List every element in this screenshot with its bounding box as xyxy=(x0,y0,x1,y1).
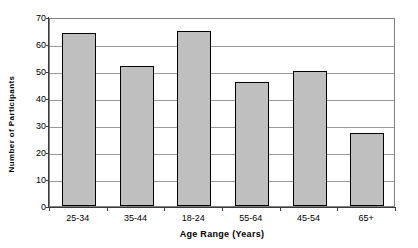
x-axis-title: Age Range (Years) xyxy=(49,229,395,239)
x-axis-tick-mark xyxy=(337,207,338,211)
bar xyxy=(350,133,384,206)
bars-group xyxy=(50,19,394,206)
bar xyxy=(62,33,96,206)
y-axis-tick-label: 10 xyxy=(20,176,46,185)
y-axis-title: Number of Participants xyxy=(0,0,22,248)
plot-area xyxy=(49,18,395,207)
bar xyxy=(293,71,327,206)
x-axis-tick-mark xyxy=(49,207,50,211)
x-axis-tick-label: 45-54 xyxy=(297,213,320,223)
bar xyxy=(235,82,269,206)
y-axis-tick-label: 70 xyxy=(20,14,46,23)
x-axis-tick-label: 55-64 xyxy=(239,213,262,223)
x-axis-tick-label: 25-34 xyxy=(66,213,89,223)
y-axis-tick-label: 40 xyxy=(20,95,46,104)
y-axis-tick-label: 20 xyxy=(20,149,46,158)
bar-chart: Number of Participants 706050403020100 2… xyxy=(0,0,418,248)
y-axis-tick-label: 50 xyxy=(20,68,46,77)
y-axis-tick-label: 60 xyxy=(20,41,46,50)
bar xyxy=(120,66,154,206)
x-axis-tick-mark xyxy=(280,207,281,211)
x-axis-tick-mark xyxy=(107,207,108,211)
y-axis-tick-labels: 706050403020100 xyxy=(20,0,46,248)
x-axis-tick-label: 65+ xyxy=(359,213,374,223)
x-axis-tick-mark xyxy=(164,207,165,211)
x-axis-tick-mark xyxy=(222,207,223,211)
y-axis-tick-label: 0 xyxy=(20,203,46,212)
bar xyxy=(177,31,211,207)
x-axis-tick-mark xyxy=(395,207,396,211)
x-axis-tick-label: 18-24 xyxy=(182,213,205,223)
y-axis-tick-label: 30 xyxy=(20,122,46,131)
x-axis-tick-label: 35-44 xyxy=(124,213,147,223)
